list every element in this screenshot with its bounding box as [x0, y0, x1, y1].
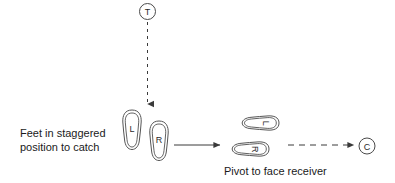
marker-receiver: C — [359, 138, 375, 154]
footwork-diagram: T L R L R — [0, 0, 395, 183]
left-foot-pivot-letter: L — [261, 121, 271, 126]
thrower-letter: T — [145, 7, 151, 17]
right-foot-pivot-letter: R — [250, 146, 260, 153]
left-foot-start: L — [123, 110, 141, 150]
marker-thrower: T — [140, 4, 156, 20]
left-foot-pivot: L — [242, 116, 279, 130]
diagram-canvas: T L R L R — [0, 0, 395, 183]
staggered-label-line1: Feet in staggered — [20, 127, 106, 139]
pivot-label: Pivot to face receiver — [224, 165, 327, 177]
receiver-letter: C — [364, 142, 371, 152]
right-foot-start-letter: R — [156, 135, 163, 145]
staggered-label-line2: position to catch — [20, 141, 100, 153]
right-foot-start: R — [150, 121, 168, 161]
left-foot-start-letter: L — [129, 124, 134, 134]
right-foot-pivot: R — [232, 142, 269, 156]
